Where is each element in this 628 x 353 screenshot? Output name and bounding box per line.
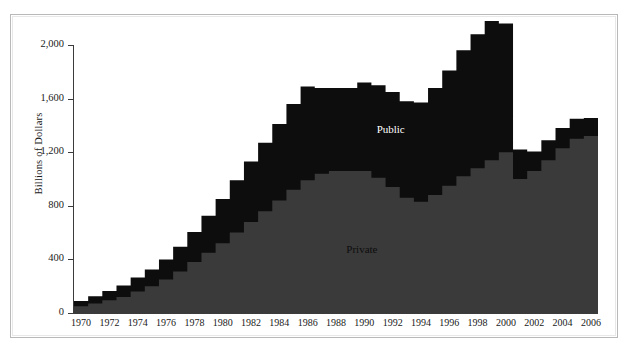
stacked-area-plot [0, 0, 628, 353]
figure-container: Billions of Dollars 04008001,2001,6002,0… [0, 0, 628, 353]
public-series-label: Public [377, 123, 405, 135]
private-series-label: Private [346, 243, 377, 255]
